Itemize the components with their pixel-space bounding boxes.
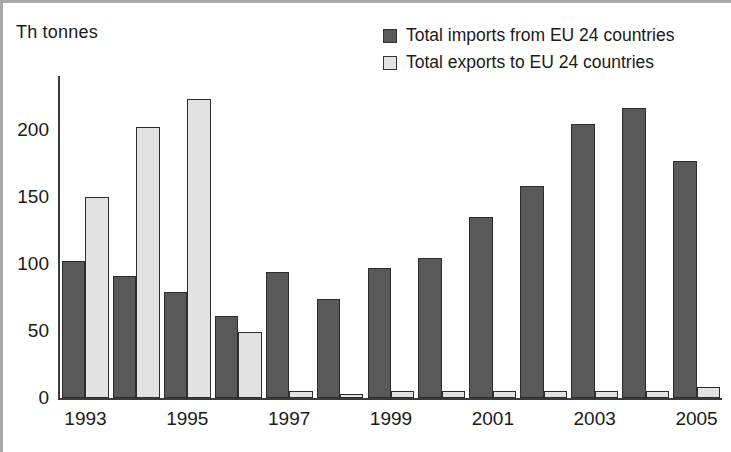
bar-group-1997 xyxy=(264,76,315,398)
bar-exports-1994 xyxy=(136,127,159,398)
y-axis-unit-label: Th tonnes xyxy=(16,22,98,43)
x-axis-line xyxy=(58,398,722,400)
bar-imports-2005 xyxy=(673,161,696,398)
page-frame-left-edge xyxy=(0,0,3,452)
y-axis-tick-50: 50 xyxy=(28,320,49,342)
bar-group-2005 xyxy=(671,76,722,398)
bar-exports-2005 xyxy=(697,387,720,398)
bar-exports-2004 xyxy=(646,391,669,398)
x-axis-label-2004 xyxy=(620,408,671,430)
bar-group-1998 xyxy=(315,76,366,398)
bar-group-1993 xyxy=(60,76,111,398)
bar-imports-2001 xyxy=(469,217,492,398)
legend-swatch-exports-icon xyxy=(383,56,397,70)
bar-exports-1996 xyxy=(238,332,261,398)
bar-exports-2002 xyxy=(544,391,567,398)
bar-exports-2001 xyxy=(493,391,516,398)
x-axis-label-1993: 1993 xyxy=(60,408,111,430)
bar-group-2000 xyxy=(416,76,467,398)
bar-exports-1999 xyxy=(391,391,414,398)
bar-group-1994 xyxy=(111,76,162,398)
x-axis-label-1996 xyxy=(213,408,264,430)
chart-legend: Total imports from EU 24 countries Total… xyxy=(383,22,674,76)
bar-imports-1993 xyxy=(62,261,85,398)
bar-exports-1995 xyxy=(187,99,210,398)
legend-item-imports: Total imports from EU 24 countries xyxy=(383,22,674,49)
y-axis-tick-200: 200 xyxy=(17,119,49,141)
x-axis-label-1999: 1999 xyxy=(366,408,417,430)
bar-group-1995 xyxy=(162,76,213,398)
legend-label-imports: Total imports from EU 24 countries xyxy=(406,25,674,46)
x-axis-label-2001: 2001 xyxy=(467,408,518,430)
x-axis-label-1997: 1997 xyxy=(264,408,315,430)
y-axis-tick-0: 0 xyxy=(38,387,49,409)
x-axis-label-1994 xyxy=(111,408,162,430)
legend-label-exports: Total exports to EU 24 countries xyxy=(406,52,654,73)
plot-area: 050100150200 xyxy=(58,76,722,400)
bar-groups-container xyxy=(60,76,722,398)
bar-group-2003 xyxy=(569,76,620,398)
bar-group-2002 xyxy=(518,76,569,398)
bar-group-2004 xyxy=(620,76,671,398)
bar-chart-figure: Th tonnes Total imports from EU 24 count… xyxy=(0,0,731,452)
bar-imports-1995 xyxy=(164,292,187,398)
bar-imports-2004 xyxy=(622,108,645,398)
bar-imports-2002 xyxy=(520,186,543,398)
bar-exports-2003 xyxy=(595,391,618,398)
bar-imports-1998 xyxy=(317,299,340,398)
y-axis-tick-150: 150 xyxy=(17,186,49,208)
bar-exports-2000 xyxy=(442,391,465,398)
bar-imports-2003 xyxy=(571,124,594,398)
bar-imports-1996 xyxy=(215,316,238,398)
page-frame-inner-gap xyxy=(3,3,731,5)
bar-imports-1999 xyxy=(368,268,391,398)
bar-exports-1993 xyxy=(85,197,108,398)
x-axis-label-2003: 2003 xyxy=(569,408,620,430)
y-axis-tick-100: 100 xyxy=(17,253,49,275)
bar-group-1999 xyxy=(366,76,417,398)
bar-imports-1994 xyxy=(113,276,136,398)
bar-group-2001 xyxy=(467,76,518,398)
legend-item-exports: Total exports to EU 24 countries xyxy=(383,49,674,76)
x-axis-tick-labels: 1993199519971999200120032005 xyxy=(60,408,722,430)
x-axis-label-1998 xyxy=(315,408,366,430)
x-axis-label-2000 xyxy=(416,408,467,430)
bar-imports-1997 xyxy=(266,272,289,398)
bar-imports-2000 xyxy=(418,258,441,398)
bar-exports-1998 xyxy=(340,394,363,398)
x-axis-label-2002 xyxy=(518,408,569,430)
legend-swatch-imports-icon xyxy=(383,29,397,43)
x-axis-label-1995: 1995 xyxy=(162,408,213,430)
x-axis-label-2005: 2005 xyxy=(671,408,722,430)
bar-group-1996 xyxy=(213,76,264,398)
bar-exports-1997 xyxy=(289,391,312,398)
